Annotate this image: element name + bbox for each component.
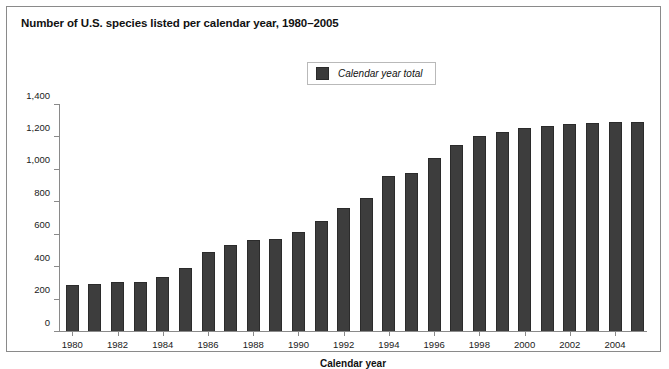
x-axis: [59, 331, 647, 332]
bar: [66, 285, 79, 331]
y-tick: [54, 201, 59, 202]
bar: [405, 173, 418, 331]
x-tick: [389, 332, 390, 336]
x-tick: [253, 332, 254, 336]
bar: [247, 240, 260, 331]
bar: [134, 282, 147, 331]
y-tick-label: 1,400: [26, 89, 50, 100]
bar: [360, 198, 373, 331]
y-tick-label: 1,200: [26, 121, 50, 132]
bar: [450, 145, 463, 331]
bar: [315, 221, 328, 331]
bar: [473, 136, 486, 331]
bar: [292, 232, 305, 331]
bar: [541, 126, 554, 331]
page-title: Number of U.S. species listed per calend…: [21, 17, 339, 29]
y-tick: [54, 266, 59, 267]
chart-figure: Number of U.S. species listed per calend…: [6, 6, 661, 352]
x-tick-label: 1986: [197, 339, 218, 350]
x-tick-label: 1984: [152, 339, 173, 350]
bar: [337, 208, 350, 331]
bar: [518, 128, 531, 331]
x-tick: [615, 332, 616, 336]
x-tick: [72, 332, 73, 336]
x-tick: [479, 332, 480, 336]
x-tick-label: 1992: [333, 339, 354, 350]
y-tick: [54, 104, 59, 105]
y-tick: [54, 136, 59, 137]
y-tick: [54, 331, 59, 332]
x-tick: [570, 332, 571, 336]
x-tick-label: 1980: [62, 339, 83, 350]
bar: [631, 122, 644, 331]
x-tick-label: 1990: [288, 339, 309, 350]
y-tick-label: 1,000: [26, 154, 50, 165]
bar: [202, 252, 215, 331]
bar: [496, 132, 509, 331]
x-tick: [118, 332, 119, 336]
y-tick: [54, 299, 59, 300]
bar: [88, 284, 101, 331]
bar: [179, 268, 192, 331]
x-tick-label: 1994: [378, 339, 399, 350]
x-tick-label: 2002: [559, 339, 580, 350]
y-tick-label: 800: [34, 186, 50, 197]
y-tick: [54, 234, 59, 235]
x-axis-label: Calendar year: [59, 358, 647, 369]
chart-legend: Calendar year total: [307, 62, 436, 85]
x-tick-label: 2000: [514, 339, 535, 350]
x-tick: [434, 332, 435, 336]
y-tick-label: 600: [34, 219, 50, 230]
y-tick-label: 0: [45, 316, 50, 327]
x-tick: [344, 332, 345, 336]
y-tick-label: 400: [34, 251, 50, 262]
bar: [428, 158, 441, 331]
bar: [111, 282, 124, 331]
bar: [224, 245, 237, 331]
x-tick: [298, 332, 299, 336]
bar: [156, 277, 169, 331]
x-tick: [208, 332, 209, 336]
x-tick-label: 1982: [107, 339, 128, 350]
bar: [586, 123, 599, 331]
x-tick: [163, 332, 164, 336]
x-tick-label: 2004: [604, 339, 625, 350]
y-tick: [54, 169, 59, 170]
x-tick-label: 1988: [243, 339, 264, 350]
bar: [269, 239, 282, 331]
x-tick: [525, 332, 526, 336]
x-tick-label: 1996: [424, 339, 445, 350]
legend-swatch-icon: [316, 67, 329, 80]
bar: [382, 176, 395, 331]
y-axis: [59, 104, 60, 332]
x-tick-label: 1998: [469, 339, 490, 350]
plot-area: 02004006008001,0001,2001,400 19801982198…: [59, 104, 647, 332]
y-tick-label: 200: [34, 284, 50, 295]
legend-label: Calendar year total: [338, 68, 423, 79]
bar: [563, 124, 576, 331]
bar: [609, 122, 622, 331]
